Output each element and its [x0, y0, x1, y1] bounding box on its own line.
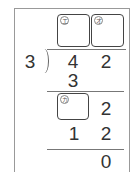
box-label-ka: カ [60, 95, 69, 104]
answer-box-ka[interactable]: カ [57, 93, 89, 120]
answer-box-o[interactable]: オ [91, 14, 124, 47]
box-label-o: オ [94, 16, 103, 25]
second-product-ones: 2 [98, 124, 114, 143]
answer-box-e[interactable]: エ [57, 14, 90, 47]
divisor: 3 [22, 52, 38, 71]
subtraction-line-1 [47, 91, 124, 92]
final-remainder: 0 [98, 152, 114, 171]
dividend-digit-ones: 2 [98, 52, 114, 71]
box-label-e: エ [60, 16, 69, 25]
first-product: 3 [65, 71, 81, 90]
division-bar [47, 49, 126, 50]
division-bracket [40, 49, 49, 73]
dividend-digit-tens: 4 [65, 52, 81, 71]
subtraction-line-2 [47, 149, 124, 150]
brought-down-digit: 2 [98, 99, 114, 118]
second-product-tens: 1 [66, 124, 82, 143]
